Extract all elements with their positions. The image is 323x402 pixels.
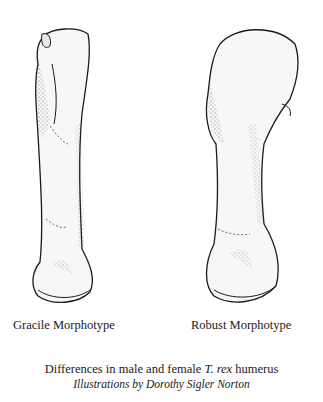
gracile-morphotype-label: Gracile Morphotype (13, 318, 115, 333)
figure-caption: Differences in male and female T. rex hu… (0, 362, 323, 377)
caption-suffix: humerus (232, 362, 278, 376)
caption-prefix: Differences in male and female (45, 362, 205, 376)
robust-humerus-illustration (190, 24, 305, 314)
caption-species: T. rex (204, 362, 232, 376)
gracile-humerus-illustration (22, 24, 112, 314)
robust-morphotype-label: Robust Morphotype (191, 318, 291, 333)
illustration-credit: Illustrations by Dorothy Sigler Norton (0, 378, 323, 390)
